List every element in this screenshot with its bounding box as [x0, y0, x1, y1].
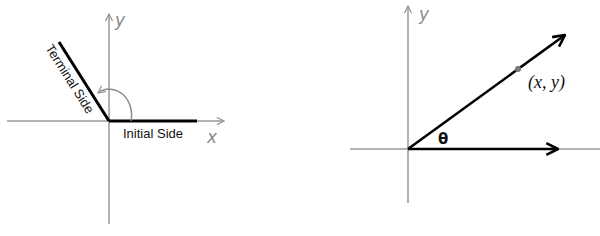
point-label: (x, y) [528, 72, 565, 93]
x-axis-label: x [206, 127, 218, 147]
y-axis-label: y [114, 10, 126, 30]
terminal-ray [408, 35, 565, 149]
initial-side-label: Initial Side [123, 126, 183, 141]
point-marker [515, 66, 521, 72]
angle-with-point-diagram: y (x, y) θ [350, 4, 600, 203]
terminal-side-label: Terminal Side [42, 42, 97, 117]
y-axis-label: y [418, 4, 430, 24]
diagram-canvas: y x Initial Side Terminal Side y (x, y) … [0, 0, 600, 236]
theta-label: θ [438, 130, 448, 148]
rotation-arc-icon [98, 89, 132, 121]
standard-position-angle-diagram: y x Initial Side Terminal Side [7, 10, 224, 224]
